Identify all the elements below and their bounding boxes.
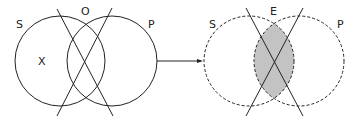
label-o-left: O xyxy=(81,5,90,18)
venn-diagram: S O P X S E P xyxy=(0,0,360,122)
transform-arrow xyxy=(157,59,203,63)
label-x-marker: X xyxy=(38,55,46,68)
label-p-left: P xyxy=(148,18,155,31)
left-diagram: S O P X xyxy=(15,5,157,116)
circle-p-left xyxy=(67,16,157,106)
label-s-right: S xyxy=(209,18,216,31)
circle-s-left xyxy=(15,16,105,106)
label-p-right: P xyxy=(337,18,344,31)
label-e-right: E xyxy=(270,5,277,18)
label-s-left: S xyxy=(16,18,23,31)
arrowhead-icon xyxy=(197,59,203,63)
right-diagram: S E P xyxy=(204,5,344,116)
